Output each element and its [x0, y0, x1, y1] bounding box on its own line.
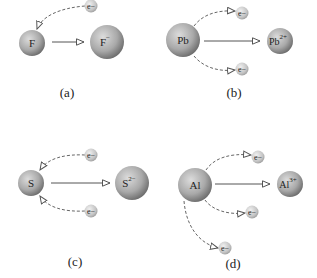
ion-pb-2plus: Pb2+ [267, 28, 293, 54]
svg-text:e−: e− [87, 207, 96, 216]
atom-f: F [19, 30, 45, 56]
electron: e− [85, 205, 98, 218]
ion-formation-diagram: e− F F− (a) e− e− Pb Pb2+ [0, 0, 317, 278]
svg-text:e−: e− [238, 65, 247, 74]
electron: e− [252, 151, 265, 164]
svg-text:e−: e− [221, 244, 230, 253]
svg-text:e−: e− [87, 2, 96, 11]
electron: e− [236, 63, 249, 76]
atom-pb: Pb [166, 23, 200, 57]
ion-al-3plus: Al3+ [277, 171, 303, 197]
electron: e− [85, 149, 98, 162]
electron-path [205, 200, 245, 213]
electron: e− [219, 242, 232, 255]
panel-label-d: (d) [225, 256, 240, 271]
atom-al: Al [178, 168, 212, 202]
electron-path [206, 155, 251, 170]
atom-label: Al [190, 179, 201, 191]
electron-path [37, 6, 85, 29]
electron-path [40, 196, 85, 211]
svg-text:e−: e− [87, 151, 96, 160]
ion-f-minus: F− [90, 25, 124, 59]
panel-label-a: (a) [60, 85, 74, 100]
electron: e− [246, 206, 259, 219]
atom-s: S [18, 170, 44, 196]
panel-b: e− e− Pb Pb2+ (b) [166, 7, 293, 101]
panel-a: e− F F− (a) [19, 0, 124, 100]
panel-d: e− e− e− Al Al3+ (d) [178, 151, 303, 272]
electron-path [40, 155, 85, 170]
electron: e− [85, 0, 98, 13]
electron-path [194, 11, 235, 26]
atom-label: F [29, 37, 35, 49]
panel-label-b: (b) [226, 85, 241, 100]
atom-label: Pb [177, 34, 189, 46]
panel-c: e− e− S S2− (c) [18, 149, 149, 270]
panel-label-c: (c) [68, 254, 82, 269]
electron-path [194, 56, 235, 70]
svg-text:e−: e− [238, 9, 247, 18]
svg-text:e−: e− [254, 153, 263, 162]
ion-s-2minus: S2− [115, 166, 149, 200]
atom-label: S [28, 177, 34, 189]
electron-path [184, 201, 218, 248]
svg-text:e−: e− [248, 208, 257, 217]
electron: e− [236, 7, 249, 20]
